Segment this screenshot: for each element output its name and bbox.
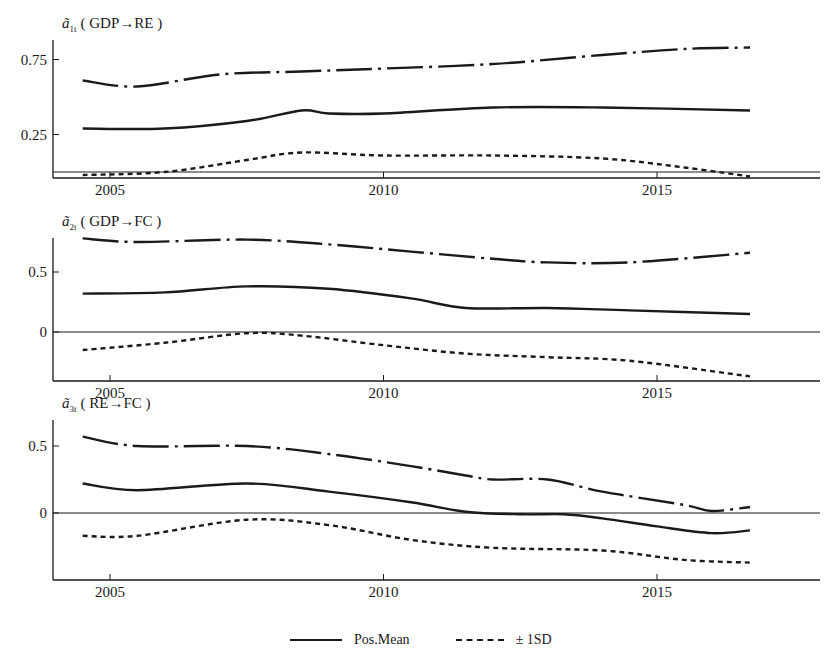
lower-sd-line xyxy=(83,152,750,176)
upper-sd-line xyxy=(83,437,750,511)
legend-label-sd: ± 1SD xyxy=(516,632,552,648)
y-tick-label: 0.5 xyxy=(28,264,47,280)
title-text: ( GDP→RE ) xyxy=(81,15,163,32)
x-tick-label: 2015 xyxy=(642,182,672,198)
upper-sd-line xyxy=(83,238,750,263)
y-tick-label: 0.5 xyxy=(28,438,47,454)
panel-title: ã2t( GDP→FC ) xyxy=(62,213,161,232)
x-tick-label: 2010 xyxy=(369,584,399,600)
title-subscript: 1t xyxy=(70,24,78,34)
y-tick-label: 0.75 xyxy=(21,52,47,68)
x-tick-label: 2005 xyxy=(95,182,125,198)
x-tick-label: 2015 xyxy=(642,584,672,600)
mean-line xyxy=(83,483,750,533)
x-tick-label: 2010 xyxy=(369,385,399,401)
panel-gdp-fc: ã2t( GDP→FC )00.5200520102015 xyxy=(28,213,820,401)
x-tick-label: 2010 xyxy=(369,182,399,198)
dashed-line-swatch-icon xyxy=(456,639,504,641)
panel-title: ã3t( RE→FC ) xyxy=(62,395,151,414)
legend-item-sd: ± 1SD xyxy=(456,632,552,648)
chart-figure: ã1t( GDP→RE )0.250.75200520102015 ã2t(… xyxy=(0,0,840,670)
legend-item-mean: Pos.Mean xyxy=(290,632,410,648)
y-tick-label: 0 xyxy=(40,505,48,521)
mean-line xyxy=(83,286,750,314)
title-text: ( GDP→FC ) xyxy=(81,213,162,230)
panel-gdp-re: ã1t( GDP→RE )0.250.75200520102015 xyxy=(21,15,820,198)
solid-line-swatch-icon xyxy=(290,639,342,641)
lower-sd-line xyxy=(83,333,750,377)
legend-label-mean: Pos.Mean xyxy=(354,632,410,648)
title-subscript: 2t xyxy=(70,222,78,232)
mean-line xyxy=(83,107,750,129)
panel-title: ã1t( GDP→RE ) xyxy=(62,15,162,34)
y-tick-label: 0 xyxy=(40,324,48,340)
legend: Pos.Mean ± 1SD xyxy=(290,632,598,648)
x-tick-label: 2015 xyxy=(642,385,672,401)
y-tick-label: 0.25 xyxy=(21,127,47,143)
title-subscript: 3t xyxy=(70,404,78,414)
upper-sd-line xyxy=(83,48,750,87)
panel-re-fc: ã3t( RE→FC )00.5200520102015 xyxy=(28,395,820,600)
x-tick-label: 2005 xyxy=(95,584,125,600)
title-text: ( RE→FC ) xyxy=(81,395,151,412)
